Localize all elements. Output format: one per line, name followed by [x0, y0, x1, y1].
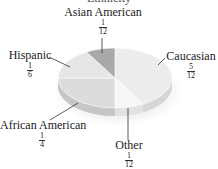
fraction-asian-american: 1 12 [99, 19, 107, 36]
label-asian-american: Asian American 1 12 [64, 6, 142, 37]
fraction-hispanic: 1 6 [27, 62, 33, 79]
label-other: Other 1 12 [110, 139, 148, 169]
fraction-other: 1 12 [125, 152, 133, 169]
label-african-american: African American 1 4 [0, 119, 84, 150]
label-caucasian: Caucasian 5 12 [162, 50, 218, 81]
fraction-caucasian: 5 12 [187, 63, 195, 80]
label-hispanic: Hispanic 1 6 [4, 49, 56, 80]
fraction-african-american: 1 4 [39, 132, 45, 149]
